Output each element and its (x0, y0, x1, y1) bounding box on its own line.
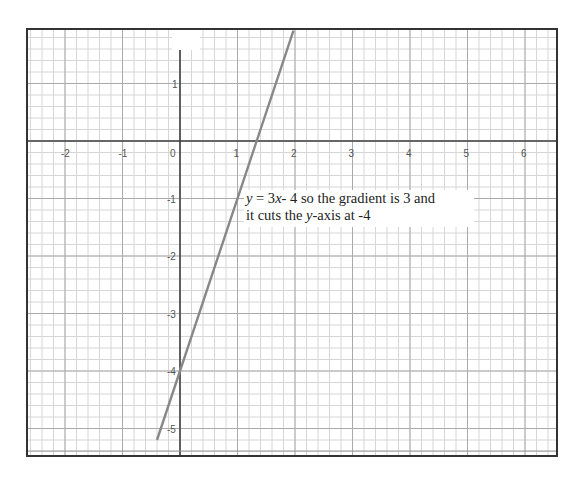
annotation-line-1: y = 3x- 4 so the gradient is 3 and (246, 190, 474, 207)
plot-area: -2-101234561-1-2-3-4-5 (28, 30, 558, 457)
equation-annotation: y = 3x- 4 so the gradient is 3 and it cu… (244, 190, 474, 227)
x-tick-label: 2 (291, 148, 297, 159)
x-tick-label: 5 (464, 148, 470, 159)
line-y-equals-3x-minus-4 (157, 31, 293, 440)
x-tick-label: 0 (170, 148, 176, 159)
x-tick-label: -2 (61, 148, 70, 159)
y-tick-label: -2 (167, 251, 176, 262)
y-tick-label: 1 (172, 79, 178, 90)
y-tick-label: -3 (167, 309, 176, 320)
x-tick-label: 1 (234, 148, 240, 159)
x-tick-label: 6 (521, 148, 527, 159)
x-tick-label: 4 (406, 148, 412, 159)
x-tick-label: 3 (349, 148, 355, 159)
graph-frame: -2-101234561-1-2-3-4-5 y = 3x- 4 so the … (26, 28, 558, 457)
y-tick-label: -1 (167, 194, 176, 205)
x-tick-label: -1 (119, 148, 128, 159)
annotation-line-2: it cuts the y-axis at -4 (246, 207, 474, 224)
blank-patch (172, 30, 200, 50)
y-tick-label: -4 (167, 366, 176, 377)
y-tick-label: -5 (167, 424, 176, 435)
